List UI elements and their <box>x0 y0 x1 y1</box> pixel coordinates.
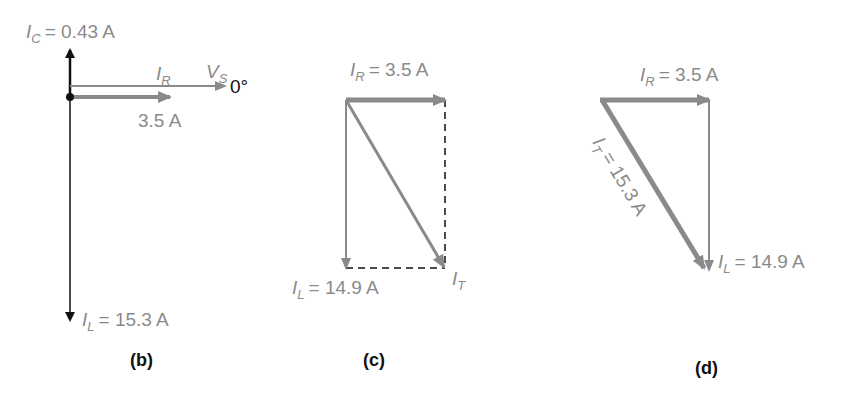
caption-b: (b) <box>130 350 153 370</box>
ic-label: IC= 0.43 A <box>26 21 115 46</box>
panel-d: IR= 3.5 A IT= 15.3 A IL= 14.9 A (d) <box>585 64 805 378</box>
caption-c: (c) <box>363 350 385 370</box>
il-label: IL= 14.9 A <box>718 251 805 276</box>
phasor-diagrams: IC= 0.43 A IR VS 0° 3.5 A IL= 15.3 A (b)… <box>0 0 845 400</box>
ir-label: IR= 3.5 A <box>350 59 429 84</box>
it-label: IT <box>452 268 466 293</box>
panel-b: IC= 0.43 A IR VS 0° 3.5 A IL= 15.3 A (b) <box>26 21 248 370</box>
il-label: IL= 15.3 A <box>82 309 169 334</box>
vs-label: VS <box>206 61 228 86</box>
ir-label: IR= 3.5 A <box>640 64 719 89</box>
origin-dot <box>66 93 74 101</box>
caption-d: (d) <box>695 358 718 378</box>
ir-label: IR <box>156 63 171 88</box>
it-label: IT= 15.3 A <box>585 133 652 221</box>
il-label: IL= 14.9 A <box>292 277 379 302</box>
panel-c: IR= 3.5 A IL= 14.9 A IT (c) <box>292 59 466 370</box>
ir-value-label: 3.5 A <box>138 110 182 131</box>
vs-angle-label: 0° <box>230 76 248 97</box>
it-vector-arrow <box>346 100 444 267</box>
